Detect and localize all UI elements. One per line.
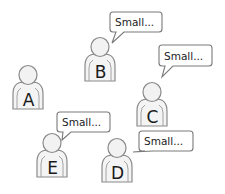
person-head-icon (108, 139, 126, 158)
speech-bubble-e: Small... (57, 112, 110, 140)
bubble-text: Small... (115, 16, 154, 28)
person-d: D (102, 139, 132, 184)
speech-bubble-d: Small... (133, 131, 193, 152)
person-b: B (85, 38, 115, 83)
person-label: C (147, 107, 159, 127)
person-label: B (95, 62, 107, 82)
person-head-icon (143, 83, 161, 102)
bubble-text: Small... (144, 135, 183, 147)
person-a: A (13, 66, 43, 111)
person-head-icon (19, 66, 37, 85)
person-label: E (47, 158, 58, 178)
bubble-text: Small... (164, 50, 203, 62)
person-c: C (137, 83, 167, 128)
diagram-canvas: ABSmall...CSmall...ESmall...DSmall... (0, 0, 225, 194)
person-head-icon (43, 134, 61, 153)
speech-bubble-b: Small... (110, 12, 162, 43)
person-label: A (23, 90, 35, 110)
speech-bubble-c: Small... (159, 45, 212, 77)
person-label: D (111, 163, 124, 183)
person-head-icon (91, 38, 109, 57)
bubble-text: Small... (62, 116, 101, 128)
